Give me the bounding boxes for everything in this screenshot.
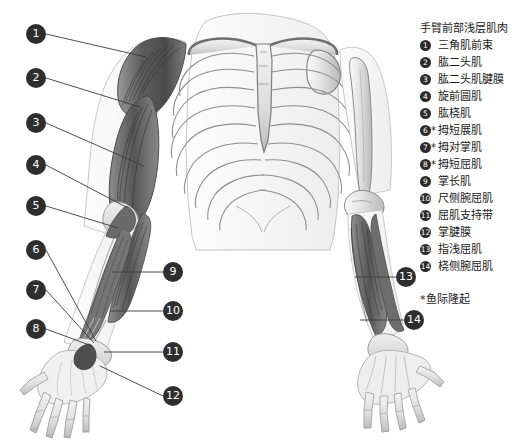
callout-marker-5: 5 (26, 196, 46, 216)
legend-item-label: 旋前圆肌 (437, 89, 482, 104)
legend-item-12: 12*掌腱膜 (420, 225, 530, 242)
legend-bullet-icon: 9 (420, 176, 431, 187)
legend-bullet-icon: 1 (420, 40, 431, 51)
legend-item-label: 掌腱膜 (437, 225, 471, 240)
legend-bullet-icon: 14 (420, 261, 431, 272)
callout-marker-10: 10 (163, 301, 183, 321)
callout-marker-4: 4 (26, 155, 46, 175)
callout-marker-1: 1 (26, 24, 46, 44)
legend-bullet-icon: 4 (420, 91, 431, 102)
legend-list: 1*三角肌前束2*肱二头肌3*肱二头肌腱膜4*旋前圆肌5*肱桡肌6*拇短展肌7*… (420, 38, 530, 276)
callout-marker-3: 3 (26, 113, 46, 133)
legend-bullet-icon: 3 (420, 74, 431, 85)
legend-bullet-icon: 6 (420, 125, 431, 136)
legend-bullet-icon: 10 (420, 193, 431, 204)
legend-panel: 手臂前部浅层肌肉 1*三角肌前束2*肱二头肌3*肱二头肌腱膜4*旋前圆肌5*肱桡… (420, 22, 530, 306)
legend-item-10: 10*尺侧腕屈肌 (420, 191, 530, 208)
legend-item-label: 尺侧腕屈肌 (437, 191, 493, 206)
legend-item-4: 4*旋前圆肌 (420, 89, 530, 106)
callout-marker-12: 12 (163, 386, 183, 406)
legend-item-5: 5*肱桡肌 (420, 106, 530, 123)
callout-marker-7: 7 (26, 280, 46, 300)
legend-item-label: 掌长肌 (437, 174, 471, 189)
leader-line-1 (46, 34, 146, 57)
callout-marker-11: 11 (163, 342, 183, 362)
callout-marker-14: 14 (404, 310, 424, 330)
legend-footnote: *鱼际隆起 (420, 290, 530, 306)
legend-item-3: 3*肱二头肌腱膜 (420, 72, 530, 89)
legend-item-label: 肱桡肌 (437, 106, 471, 121)
legend-item-label: 桡侧腕屈肌 (437, 259, 493, 274)
callout-marker-13: 13 (396, 267, 416, 287)
callout-marker-9: 9 (163, 262, 183, 282)
legend-bullet-icon: 5 (420, 108, 431, 119)
legend-bullet-icon: 7 (420, 142, 431, 153)
leader-line-12 (100, 366, 163, 396)
legend-item-label: 拇短屈肌 (437, 157, 482, 172)
legend-item-label: 三角肌前束 (437, 38, 493, 53)
legend-item-9: 9*掌长肌 (420, 174, 530, 191)
legend-item-6: 6*拇短展肌 (420, 123, 530, 140)
legend-item-label: 拇短展肌 (437, 123, 482, 138)
legend-bullet-icon: 13 (420, 244, 431, 255)
legend-item-label: 肱二头肌 (437, 55, 482, 70)
legend-item-14: 14*桡侧腕屈肌 (420, 259, 530, 276)
legend-item-11: 11*屈肌支持带 (420, 208, 530, 225)
legend-item-label: 拇对掌肌 (437, 140, 482, 155)
callout-marker-6: 6 (26, 240, 46, 260)
legend-title: 手臂前部浅层肌肉 (420, 22, 530, 35)
legend-item-label: 肱二头肌腱膜 (437, 72, 504, 87)
legend-bullet-icon: 12 (420, 227, 431, 238)
legend-item-13: 13*指浅屈肌 (420, 242, 530, 259)
legend-bullet-icon: 11 (420, 210, 431, 221)
legend-item-label: 指浅屈肌 (437, 242, 482, 257)
legend-item-label: 屈肌支持带 (437, 208, 493, 223)
callout-marker-8: 8 (26, 319, 46, 339)
legend-item-8: 8*拇短屈肌 (420, 157, 530, 174)
illustration-page: 1234567891011121314 手臂前部浅层肌肉 1*三角肌前束2*肱二… (0, 0, 530, 443)
left-arm (20, 38, 186, 438)
callout-marker-2: 2 (26, 68, 46, 88)
legend-item-2: 2*肱二头肌 (420, 55, 530, 72)
legend-item-1: 1*三角肌前束 (420, 38, 530, 55)
legend-bullet-icon: 8 (420, 159, 431, 170)
legend-bullet-icon: 2 (420, 57, 431, 68)
legend-item-7: 7*拇对掌肌 (420, 140, 530, 157)
